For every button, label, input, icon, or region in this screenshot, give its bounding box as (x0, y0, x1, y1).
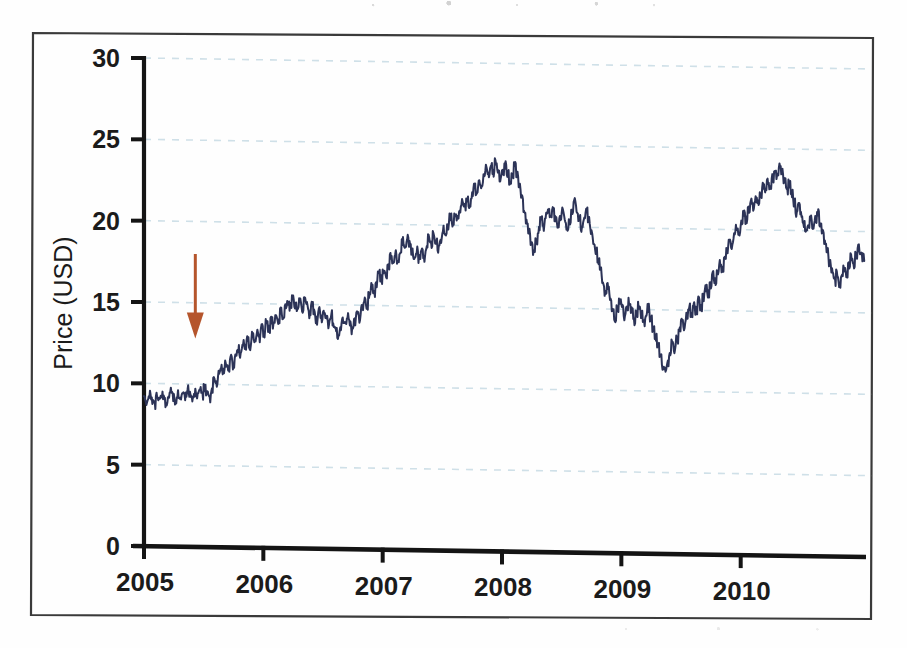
gridline (144, 139, 872, 150)
y-axis-tick-labels: 051015202530 (92, 44, 120, 560)
y-axis-tick-label: 25 (92, 125, 120, 153)
y-axis-tick-label: 10 (92, 369, 120, 397)
event-arrow-head (187, 313, 204, 339)
x-axis-spine (133, 546, 866, 557)
gridline (144, 383, 872, 394)
price-chart: 051015202530 200520062007200820092010 Pr… (0, 0, 907, 648)
y-axis-tick-label: 5 (106, 451, 120, 479)
y-axis-tick-label: 20 (92, 207, 120, 235)
y-axis-title: Price (USD) (49, 236, 77, 369)
gridline (144, 465, 872, 476)
x-axis-tick-label: 2010 (713, 576, 771, 606)
gridline (144, 221, 872, 232)
y-axis-tick-label: 15 (92, 288, 120, 316)
x-axis-tick-label: 2009 (593, 574, 651, 604)
x-axis-tick-label: 2008 (474, 572, 532, 602)
x-axis-tick-label: 2007 (355, 571, 413, 601)
y-axis-tick-label: 30 (92, 44, 120, 72)
x-axis-tick-label: 2006 (235, 569, 293, 599)
gridline (144, 302, 872, 313)
figure-root: 051015202530 200520062007200820092010 Pr… (0, 0, 907, 648)
x-axis-tick-label: 2005 (116, 567, 174, 597)
gridlines (144, 58, 872, 476)
figure-frame (31, 33, 873, 619)
annotation-layer (187, 254, 204, 339)
x-axis-tick-labels: 200520062007200820092010 (116, 567, 771, 606)
gridline (144, 58, 872, 69)
price-series-line (144, 158, 864, 409)
y-axis-tick-label: 0 (106, 532, 120, 560)
